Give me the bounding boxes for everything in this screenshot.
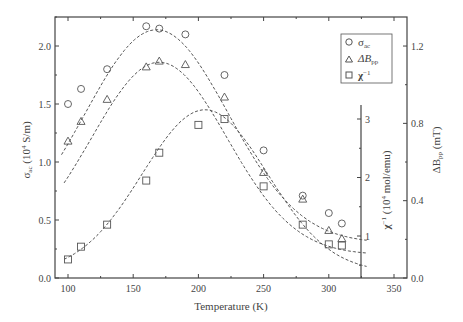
left-tick-label: 1.5 — [39, 99, 52, 110]
chart: 100150200250300350 0.00.51.01.52.0 0.00.… — [0, 0, 463, 322]
fit-curve-delta_B_pp — [64, 62, 367, 253]
left-tick-label: 1.0 — [39, 157, 52, 168]
x-tick-label: 100 — [61, 283, 76, 294]
fit-curve-chi_inverse — [64, 110, 367, 267]
square-marker-icon — [78, 243, 85, 250]
circle-marker-icon — [78, 85, 85, 92]
square-marker-icon — [195, 121, 202, 128]
inner-axis-label: χ−1 (104 mol/emu) — [380, 150, 393, 230]
x-tick-label: 300 — [321, 283, 336, 294]
triangle-marker-icon — [103, 95, 111, 102]
data-points — [64, 23, 346, 263]
square-marker-icon — [156, 149, 163, 156]
inner-axis-ticks: 123 — [357, 114, 370, 266]
triangle-marker-icon — [155, 57, 163, 64]
x-tick-label: 250 — [256, 283, 271, 294]
right-tick-label: 0.4 — [411, 195, 424, 206]
circle-marker-icon — [325, 210, 332, 217]
right-tick-label: 1.2 — [411, 41, 424, 52]
square-marker-icon — [260, 183, 267, 190]
triangle-marker-icon — [181, 61, 189, 68]
x-tick-label: 200 — [191, 283, 206, 294]
square-marker-icon — [65, 256, 72, 263]
square-marker-icon — [338, 242, 345, 249]
x-tick-label: 350 — [387, 283, 402, 294]
right-tick-label: 0.8 — [411, 118, 424, 129]
square-marker-icon — [221, 116, 228, 123]
triangle-marker-icon — [142, 63, 150, 70]
left-tick-label: 0.5 — [39, 215, 52, 226]
circle-marker-icon — [338, 220, 345, 227]
x-tick-label: 150 — [126, 283, 141, 294]
inner-tick-label: 2 — [365, 172, 370, 183]
right-axis-label: ΔBpp (mT) — [430, 126, 444, 173]
x-axis-label: Temperature (K) — [194, 300, 268, 313]
triangle-marker-icon — [220, 93, 228, 100]
left-axis-label: σac (104 S/m) — [20, 121, 34, 179]
circle-marker-icon — [221, 72, 228, 79]
right-axis-ticks: 0.00.40.81.2 — [403, 41, 424, 284]
triangle-marker-icon — [77, 117, 85, 124]
legend: σac ΔBpp χ−1 — [341, 34, 392, 83]
circle-marker-icon — [104, 66, 111, 73]
square-marker-icon — [143, 177, 150, 184]
inner-tick-label: 3 — [365, 114, 370, 125]
circle-marker-icon — [260, 147, 267, 154]
triangle-marker-icon — [299, 195, 307, 202]
left-tick-label: 2.0 — [39, 41, 52, 52]
circle-marker-icon — [65, 101, 72, 108]
circle-marker-icon — [156, 25, 163, 32]
right-tick-label: 0.0 — [411, 273, 424, 284]
triangle-marker-icon — [64, 137, 72, 144]
left-axis-ticks: 0.00.51.01.52.0 — [39, 17, 60, 284]
circle-marker-icon — [143, 23, 150, 30]
circle-marker-icon — [182, 31, 189, 38]
fit-curve-sigma_ac — [62, 30, 367, 241]
left-tick-label: 0.0 — [39, 273, 52, 284]
